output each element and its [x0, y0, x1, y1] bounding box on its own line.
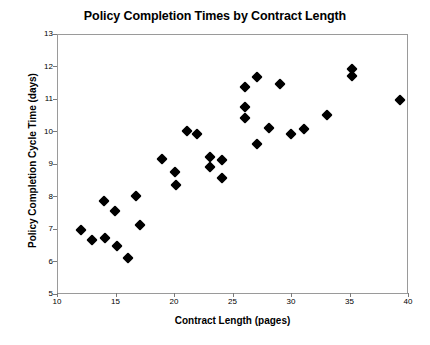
x-tick-label: 10: [53, 297, 62, 306]
y-tick-label: 12: [31, 63, 53, 71]
x-tick-label: 15: [111, 297, 120, 306]
data-point: [131, 190, 142, 201]
y-tick-label: 11: [31, 95, 53, 103]
data-point: [156, 153, 167, 164]
scatter-chart-figure: Policy Completion Times by Contract Leng…: [0, 0, 430, 345]
data-point: [240, 112, 251, 123]
x-axis-ticks: 10152025303540: [57, 297, 408, 311]
x-tick-mark: [350, 293, 351, 297]
plot-area: [57, 34, 408, 294]
data-point: [346, 70, 357, 81]
x-tick: 15: [101, 297, 131, 307]
y-tick: 13: [28, 30, 53, 38]
x-tick-mark: [291, 293, 292, 297]
data-point: [394, 94, 405, 105]
data-point: [98, 195, 109, 206]
data-points-layer: [58, 35, 407, 293]
x-tick-label: 25: [228, 297, 237, 306]
y-tick: 8: [28, 193, 53, 201]
data-point: [216, 172, 227, 183]
x-tick: 40: [393, 297, 423, 307]
data-point: [134, 219, 145, 230]
data-point: [321, 109, 332, 120]
data-point: [192, 128, 203, 139]
x-tick-mark: [116, 293, 117, 297]
y-tick: 11: [28, 95, 53, 103]
data-point: [86, 234, 97, 245]
x-tick-mark: [174, 293, 175, 297]
data-point: [251, 138, 262, 149]
data-point: [251, 72, 262, 83]
y-tick: 10: [28, 128, 53, 136]
chart-title: Policy Completion Times by Contract Leng…: [0, 9, 430, 23]
x-axis-label: Contract Length (pages): [57, 315, 408, 326]
data-point: [204, 161, 215, 172]
y-tick-label: 7: [31, 225, 53, 233]
data-point: [216, 154, 227, 165]
data-point: [298, 124, 309, 135]
y-tick-label: 6: [31, 258, 53, 266]
x-tick-label: 30: [287, 297, 296, 306]
y-tick-label: 13: [31, 30, 53, 38]
x-tick: 30: [276, 297, 306, 307]
data-point: [240, 81, 251, 92]
data-point: [240, 101, 251, 112]
y-tick-label: 10: [31, 128, 53, 136]
x-tick-mark: [408, 293, 409, 297]
y-tick: 7: [28, 225, 53, 233]
data-point: [275, 78, 286, 89]
x-tick-label: 20: [170, 297, 179, 306]
data-point: [181, 125, 192, 136]
y-axis-ticks: 5678910111213: [28, 34, 53, 294]
data-point: [76, 224, 87, 235]
y-tick: 6: [28, 258, 53, 266]
y-tick: 9: [28, 160, 53, 168]
data-point: [169, 166, 180, 177]
data-point: [263, 122, 274, 133]
x-tick-label: 40: [404, 297, 413, 306]
y-tick-label: 9: [31, 160, 53, 168]
x-tick-mark: [57, 293, 58, 297]
data-point: [99, 232, 110, 243]
data-point: [111, 241, 122, 252]
x-tick-mark: [233, 293, 234, 297]
data-point: [170, 179, 181, 190]
x-tick: 35: [335, 297, 365, 307]
data-point: [285, 128, 296, 139]
data-point: [123, 252, 134, 263]
y-tick: 12: [28, 63, 53, 71]
x-tick: 20: [159, 297, 189, 307]
data-point: [110, 205, 121, 216]
x-tick: 10: [42, 297, 72, 307]
x-tick-label: 35: [345, 297, 354, 306]
x-tick: 25: [218, 297, 248, 307]
y-tick-label: 8: [31, 193, 53, 201]
